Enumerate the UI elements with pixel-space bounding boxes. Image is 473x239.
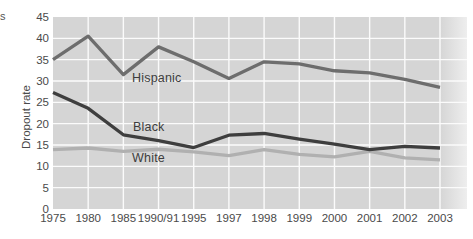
y-axis-label: Dropout rate <box>20 85 32 149</box>
x-tick-label: 1980 <box>75 212 101 224</box>
x-tick-label: 1975 <box>40 212 66 224</box>
x-tick-label: 1985 <box>111 212 137 224</box>
x-tick-label: 1990/91 <box>138 212 180 224</box>
x-tick-label: 1997 <box>216 212 242 224</box>
y-tick-label: 15 <box>36 139 49 151</box>
y-tick-label: 35 <box>36 54 49 66</box>
x-tick-label: 2001 <box>357 212 383 224</box>
dropout-rate-line-chart: Dropout rate 051015202530354045 19751980… <box>0 0 473 239</box>
x-tick-label: 1995 <box>181 212 207 224</box>
plot-background-fade <box>440 17 467 209</box>
x-tick-label: 2002 <box>392 212 418 224</box>
y-tick-label: 40 <box>36 32 49 44</box>
x-axis-ticks: 1975198019851990/91199519971998199920002… <box>40 212 453 224</box>
series-label-white: White <box>132 151 165 165</box>
x-tick-label: 2000 <box>322 212 348 224</box>
x-tick-label: 2003 <box>427 212 453 224</box>
series-label-hispanic: Hispanic <box>132 71 182 85</box>
plot-area <box>53 17 467 209</box>
y-tick-label: 10 <box>36 160 49 172</box>
y-tick-label: 5 <box>43 182 49 194</box>
y-tick-label: 25 <box>36 96 49 108</box>
y-tick-label: 20 <box>36 118 49 130</box>
x-tick-label: 1999 <box>286 212 312 224</box>
y-tick-label: 45 <box>36 11 49 23</box>
y-tick-label: 30 <box>36 75 49 87</box>
series-label-black: Black <box>133 120 165 134</box>
x-tick-label: 1998 <box>251 212 277 224</box>
y-axis-ticks: 051015202530354045 <box>36 11 49 215</box>
